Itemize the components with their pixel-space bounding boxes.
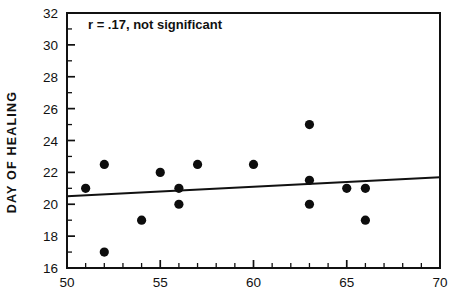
- y-tick-label-24: 24: [43, 134, 59, 149]
- data-point: [342, 184, 351, 193]
- x-tick-label-60: 60: [246, 275, 261, 290]
- y-tick-label-32: 32: [43, 6, 58, 21]
- correlation-annotation: r = .17, not significant: [88, 17, 223, 32]
- data-point: [156, 168, 165, 177]
- data-point: [305, 120, 314, 129]
- data-point: [174, 200, 183, 209]
- data-point: [137, 216, 146, 225]
- y-tick-label-26: 26: [43, 102, 58, 117]
- data-point: [100, 247, 109, 256]
- data-point: [361, 216, 370, 225]
- y-tick-label-30: 30: [43, 38, 58, 53]
- data-point: [174, 184, 183, 193]
- figure-background: [0, 0, 455, 293]
- x-tick-label-65: 65: [339, 275, 354, 290]
- y-axis-title: DAY OF HEALING: [5, 91, 19, 213]
- y-tick-label-22: 22: [43, 165, 58, 180]
- data-point: [81, 184, 90, 193]
- y-tick-label-20: 20: [43, 197, 58, 212]
- y-tick-label-18: 18: [43, 229, 58, 244]
- data-point: [193, 160, 202, 169]
- y-axis-tick-labels: 161820222426283032: [43, 6, 59, 276]
- data-point: [100, 160, 109, 169]
- data-point: [305, 200, 314, 209]
- y-tick-label-28: 28: [43, 70, 58, 85]
- y-tick-label-16: 16: [43, 261, 58, 276]
- data-point: [305, 176, 314, 185]
- scatter-plot-figure: 161820222426283032 5055606570 DAY OF HEA…: [0, 0, 455, 293]
- data-point: [361, 184, 370, 193]
- data-point: [249, 160, 258, 169]
- plot-canvas: 161820222426283032 5055606570 DAY OF HEA…: [0, 0, 455, 293]
- x-tick-label-55: 55: [153, 275, 168, 290]
- x-tick-label-50: 50: [59, 275, 74, 290]
- x-tick-label-70: 70: [432, 275, 447, 290]
